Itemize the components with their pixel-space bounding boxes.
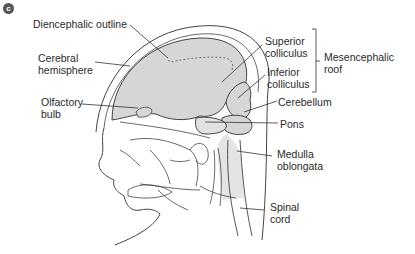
anatomical-diagram: c xyxy=(0,0,415,254)
label-diencephalic-outline: Diencephalic outline xyxy=(33,18,127,30)
label-mesencephalic-roof: Mesencephalic roof xyxy=(324,51,394,75)
label-superior-colliculus: Superior colliculus xyxy=(265,35,308,59)
label-olfactory-bulb: Olfactory bulb xyxy=(41,96,83,120)
label-cerebral-hemisphere: Cerebral hemisphere xyxy=(38,52,93,76)
label-pons: Pons xyxy=(280,118,304,130)
label-medulla-oblongata: Medulla oblongata xyxy=(277,148,323,172)
label-inferior-colliculus: Inferior colliculus xyxy=(267,66,310,90)
head-sagittal-illustration xyxy=(0,0,415,254)
label-cerebellum: Cerebellum xyxy=(278,96,332,108)
label-spinal-cord: Spinal cord xyxy=(270,201,299,225)
face-profile xyxy=(99,128,160,245)
